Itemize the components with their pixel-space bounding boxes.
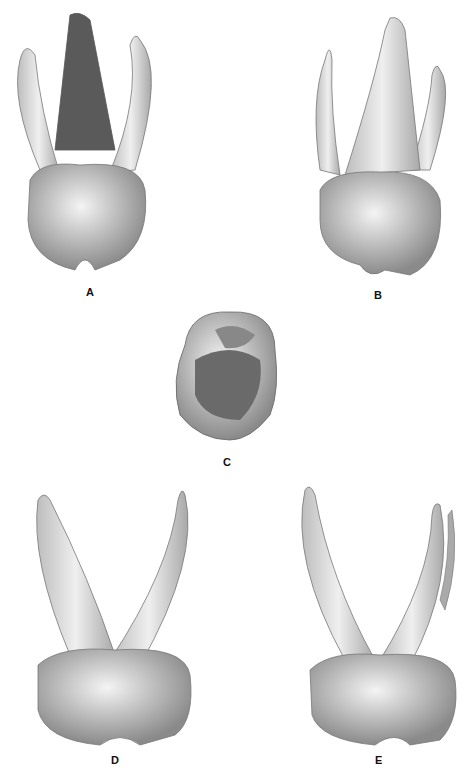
plate-illustration bbox=[0, 0, 473, 777]
tooth-a bbox=[18, 13, 152, 270]
panel-label-b: B bbox=[374, 289, 382, 301]
tooth-d bbox=[37, 491, 191, 745]
panel-label-c: C bbox=[223, 456, 231, 468]
tooth-b bbox=[316, 18, 446, 276]
tooth-e bbox=[302, 487, 456, 745]
panel-label-e: E bbox=[375, 754, 382, 766]
panel-label-d: D bbox=[111, 754, 119, 766]
tooth-c bbox=[176, 312, 277, 440]
panel-label-a: A bbox=[86, 286, 94, 298]
